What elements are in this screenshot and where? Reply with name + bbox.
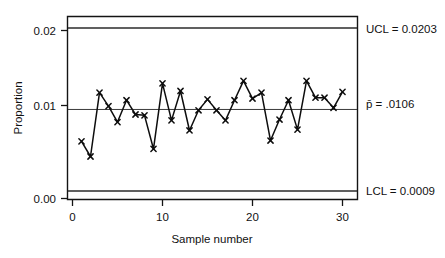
x-tick-label-10: 10	[156, 211, 169, 223]
y-axis-title: Proportion	[12, 81, 24, 134]
x-tick-label-20: 20	[246, 211, 259, 223]
x-tick-label-30: 30	[336, 211, 349, 223]
control-chart-figure: 0.02 0.01 0.00 0 10 20 30 Sample number …	[0, 0, 445, 258]
ucl-label: UCL = 0.0203	[366, 23, 437, 35]
y-tick-label-001: 0.01	[34, 100, 56, 112]
y-tick-label-002: 0.02	[34, 25, 56, 37]
y-tick-label-000: 0.00	[34, 193, 56, 205]
chart-background	[0, 0, 445, 258]
lcl-label: LCL = 0.0009	[366, 185, 435, 197]
chart-canvas: 0.02 0.01 0.00 0 10 20 30 Sample number …	[0, 0, 445, 258]
x-axis-title: Sample number	[171, 233, 252, 245]
x-tick-label-0: 0	[69, 211, 75, 223]
center-label: p̄ = .0106	[366, 98, 414, 110]
